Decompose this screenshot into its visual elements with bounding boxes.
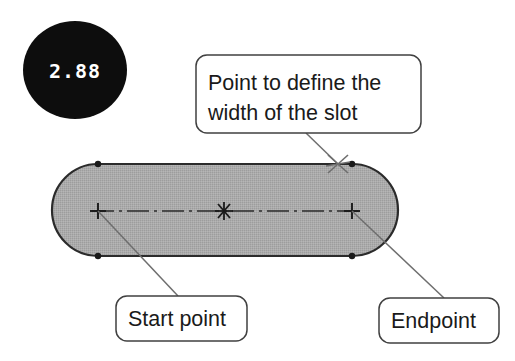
slot-tangent-dot-bottom-right xyxy=(349,253,355,259)
slot-tangent-dot-top-left xyxy=(95,161,101,167)
start-point-callout-label: Start point xyxy=(128,307,226,331)
width-callout-line1: Point to define the xyxy=(208,71,381,95)
badge-value: 2.88 xyxy=(49,59,101,83)
start-point-callout[interactable]: Start point xyxy=(116,296,247,341)
slot-tangent-dot-bottom-left xyxy=(95,253,101,259)
slot-shape xyxy=(52,155,398,259)
diagram-canvas: 2.88 xyxy=(0,0,515,361)
endpoint-callout[interactable]: Endpoint xyxy=(379,298,499,343)
value-badge: 2.88 xyxy=(23,21,127,119)
width-callout-leader xyxy=(306,133,340,166)
center-point-marker xyxy=(215,202,233,220)
width-callout[interactable]: Point to define the width of the slot xyxy=(196,55,421,133)
width-callout-line2: width of the slot xyxy=(207,101,357,125)
endpoint-callout-label: Endpoint xyxy=(391,309,476,333)
slot-sketch-figure: 2.88 xyxy=(0,0,515,361)
